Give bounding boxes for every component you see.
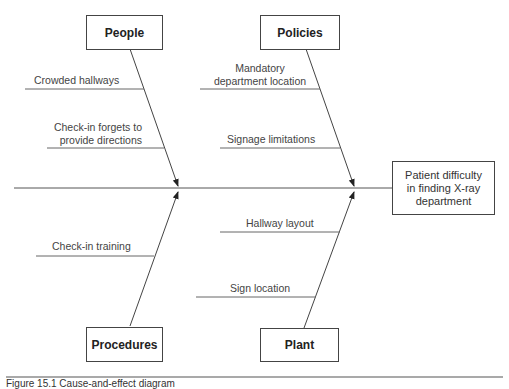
figure-caption: Figure 15.1 Cause-and-effect diagram	[6, 378, 175, 389]
effect-line-3: department	[405, 195, 482, 208]
plant-bone	[304, 192, 354, 328]
cause-text: Sign location	[230, 282, 290, 294]
category-label-plant: Plant	[285, 338, 314, 352]
cause-text-line-1: Mandatory	[206, 62, 314, 75]
cause-text: Hallway layout	[246, 217, 314, 229]
cause-mandatory-location: Mandatory department location	[206, 62, 314, 87]
cause-text-line-2: provide directions	[52, 134, 142, 147]
cause-text: Check-in training	[52, 240, 131, 252]
effect-line-2: in finding X-ray	[405, 182, 482, 195]
cause-text-line-2: department location	[206, 75, 314, 88]
cause-sign-location: Sign location	[230, 282, 290, 295]
cause-check-in-forgets: Check-in forgets to provide directions	[52, 121, 142, 146]
cause-check-in-training: Check-in training	[52, 240, 131, 253]
cause-text-line-1: Check-in forgets to	[52, 121, 142, 134]
people-bone	[130, 49, 178, 186]
cause-crowded-hallways: Crowded hallways	[34, 74, 119, 87]
cause-signage-limitations: Signage limitations	[227, 133, 315, 146]
category-box-procedures: Procedures	[86, 327, 163, 362]
cause-hallway-layout: Hallway layout	[246, 217, 314, 230]
cause-text: Signage limitations	[227, 133, 315, 145]
category-box-people: People	[86, 15, 163, 50]
cause-text: Crowded hallways	[34, 74, 119, 86]
effect-line-1: Patient difficulty	[405, 169, 482, 182]
category-box-plant: Plant	[260, 328, 339, 362]
category-label-policies: Policies	[277, 26, 322, 40]
procedures-bone	[130, 192, 178, 326]
category-box-policies: Policies	[260, 15, 340, 50]
category-label-procedures: Procedures	[91, 338, 157, 352]
category-label-people: People	[105, 26, 144, 40]
effect-box: Patient difficulty in finding X-ray depa…	[392, 161, 495, 215]
